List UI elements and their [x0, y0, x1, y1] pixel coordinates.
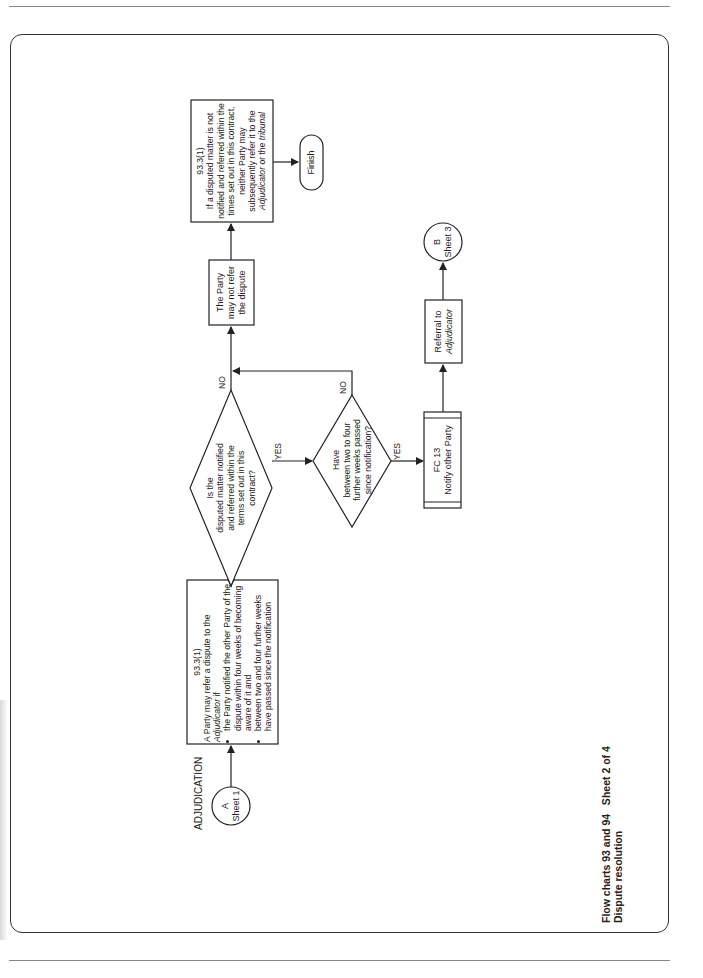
page-title-line2: Dispute resolution	[612, 746, 624, 923]
connector-b-sheet: Sheet 3	[443, 226, 454, 257]
clause-not-notified-body: If a disputed matter is not notified and…	[205, 101, 267, 221]
clause-not-notified-text: 93.3(1) If a disputed matter is not noti…	[192, 101, 272, 221]
finish-label: Finish	[300, 135, 323, 190]
connector-a[interactable]: A Sheet 1	[212, 787, 250, 825]
section-label: ADJUDICATION	[193, 757, 204, 830]
clause-refer-condition: the Party notified the other Party of th…	[222, 582, 253, 731]
clause-refer-ref: 93.3(1)	[192, 648, 202, 675]
clause-refer-intro: A Party may refer a dispute to the	[202, 614, 212, 742]
page-title-line1: Flow charts 93 and 94 Sheet 2 of 4	[600, 746, 612, 923]
decision-weeks-no-label: NO	[338, 381, 348, 394]
notify-text: FC 13 Notify other Party	[424, 418, 461, 502]
decision-terms-yes-label: YES	[273, 443, 283, 460]
decision-weeks-yes-label: YES	[392, 443, 402, 460]
decision-weeks-text: Have between two to four further weeks p…	[322, 410, 382, 510]
notify-label: Notify other Party	[443, 425, 454, 495]
clause-refer-intro-2: Adjudicator if	[212, 692, 222, 742]
connector-a-sheet: Sheet 1	[231, 790, 242, 821]
may-not-refer-text: The Party may not refer the dispute	[209, 260, 254, 325]
page-title: Flow charts 93 and 94 Sheet 2 of 4 Dispu…	[600, 746, 624, 923]
connector-a-letter: A	[220, 803, 231, 809]
notify-ref: FC 13	[432, 448, 443, 473]
clause-refer-condition: between two and four further weeks have …	[253, 582, 273, 731]
clause-refer-conditions: the Party notified the other Party of th…	[222, 582, 273, 742]
connector-b[interactable]: B Sheet 3	[424, 223, 462, 261]
referral-text: Referral to Adjudicator	[425, 300, 462, 363]
decision-terms-text: Is the disputed matter notified and refe…	[195, 420, 267, 556]
clause-refer-text: 93.3(1) A Party may refer a dispute to t…	[189, 582, 276, 742]
connector-b-letter: B	[432, 239, 443, 245]
decision-terms-no-label: NO	[217, 376, 227, 389]
clause-not-notified-ref: 93.3(1)	[195, 147, 205, 174]
